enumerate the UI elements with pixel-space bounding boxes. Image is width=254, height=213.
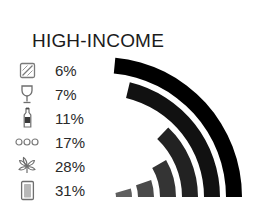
arc-bar [115,189,132,197]
radial-bar-chart: HIGH-INCOME 6% 7% [0,0,254,213]
arc-bar [152,160,176,197]
arc-bar [136,180,154,197]
arc-bars [0,0,254,213]
